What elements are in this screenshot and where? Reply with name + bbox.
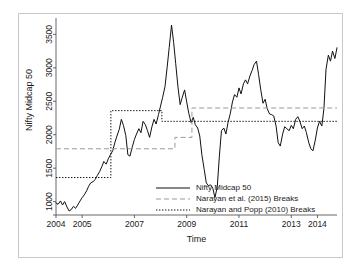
y-tick-label: 1500 xyxy=(44,158,54,177)
x-tick-label: 2007 xyxy=(125,219,144,229)
y-tick-label: 1000 xyxy=(44,192,54,211)
y-tick-label: 3000 xyxy=(44,58,54,77)
legend-label-2: Narayan and Popp (2010) Breaks xyxy=(196,205,315,214)
chart-canvas: 1000150020002500300035002004200520072009… xyxy=(0,0,362,271)
x-tick-label: 2004 xyxy=(47,219,66,229)
x-tick-label: 2011 xyxy=(230,219,249,229)
figure-container: 1000150020002500300035002004200520072009… xyxy=(0,0,362,271)
legend-label-1: Narayan et al. (2015) Breaks xyxy=(196,194,298,203)
y-tick-label: 2500 xyxy=(44,92,54,111)
y-tick-label: 2000 xyxy=(44,125,54,144)
x-tick-label: 2009 xyxy=(177,219,196,229)
x-tick-label: 2005 xyxy=(73,219,92,229)
y-tick-label: 3500 xyxy=(44,25,54,44)
y-axis-title: Nifty Midcap 50 xyxy=(24,69,34,131)
break-line-1 xyxy=(56,108,337,149)
legend-label-0: Nifty Midcap 50 xyxy=(196,183,252,192)
x-tick-label: 2014 xyxy=(308,219,327,229)
x-axis-title: Time xyxy=(187,234,207,244)
x-tick-label: 2013 xyxy=(282,219,301,229)
